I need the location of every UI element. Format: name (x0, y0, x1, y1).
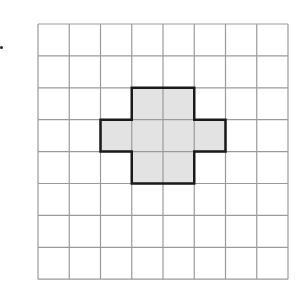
grid-lines (38, 24, 288, 279)
grid-diagram (0, 0, 299, 281)
